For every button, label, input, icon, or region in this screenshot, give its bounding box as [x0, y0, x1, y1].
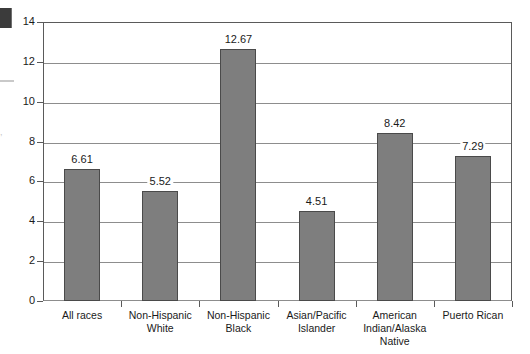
x-axis-tick [434, 301, 435, 307]
bar-slot: 12.67 [199, 22, 277, 301]
x-axis-tick [512, 301, 513, 307]
x-axis-category-label-line: Indian/Alaska [356, 322, 434, 335]
x-axis-tick [121, 301, 122, 307]
bar-value-label: 8.42 [382, 117, 407, 130]
x-axis-category-label: Non-HispanicWhite [121, 309, 199, 335]
bar [455, 156, 491, 301]
y-axis-tick-label: 8 [9, 136, 35, 147]
bar [377, 133, 413, 301]
y-axis-tick-label: 6 [9, 175, 35, 186]
x-axis-category-label-line: Black [199, 322, 277, 335]
bar-slot: 8.42 [356, 22, 434, 301]
x-axis-category-label-line: Non-Hispanic [199, 309, 277, 322]
x-axis-category-label: Asian/PacificIslander [278, 309, 356, 335]
x-axis-category-label-line: White [121, 322, 199, 335]
y-axis-tick-label: 12 [9, 56, 35, 67]
bar-value-label: 7.29 [460, 140, 485, 153]
bar-slot: 5.52 [121, 22, 199, 301]
x-axis-category-label-line: Native [356, 335, 434, 348]
y-axis-tick-label: 2 [9, 255, 35, 266]
x-axis-category-label: Puerto Rican [434, 309, 512, 322]
x-axis-category-label-line: All races [43, 309, 121, 322]
bar-series: 6.615.5212.674.518.427.29 [43, 22, 512, 301]
bar-slot: 4.51 [278, 22, 356, 301]
bar-slot: 7.29 [434, 22, 512, 301]
bar [299, 211, 335, 301]
y-axis-tick-label: 10 [9, 96, 35, 107]
x-axis-tick [199, 301, 200, 307]
bar-value-label: 12.67 [223, 33, 255, 46]
bar-value-label: 5.52 [148, 175, 173, 188]
bar [142, 191, 178, 301]
y-axis-tick [37, 301, 43, 302]
x-axis-tick [278, 301, 279, 307]
x-axis-category-label-line: Asian/Pacific [278, 309, 356, 322]
x-axis-tick [356, 301, 357, 307]
y-axis-tick-label: 4 [9, 215, 35, 226]
bar-value-label: 4.51 [304, 195, 329, 208]
x-axis-category-label: AmericanIndian/AlaskaNative [356, 309, 434, 348]
bar [64, 169, 100, 301]
bar-value-label: 6.61 [69, 153, 94, 166]
x-axis-category-label-line: Puerto Rican [434, 309, 512, 322]
bar [220, 49, 256, 301]
y-axis-tick-label: 14 [9, 16, 35, 27]
scan-artifact-rule [0, 80, 14, 82]
bar-chart-figure: , 02468101214 6.615.5212.674.518.427.29 … [0, 0, 530, 354]
x-axis-category-label-line: Islander [278, 322, 356, 335]
x-axis-category-label: Non-HispanicBlack [199, 309, 277, 335]
x-axis-category-label-line: American [356, 309, 434, 322]
y-axis-tick-label: 0 [9, 295, 35, 306]
scan-artifact-glyph: , [0, 126, 7, 138]
x-axis-category-label-line: Non-Hispanic [121, 309, 199, 322]
bar-slot: 6.61 [43, 22, 121, 301]
x-axis-category-label: All races [43, 309, 121, 322]
